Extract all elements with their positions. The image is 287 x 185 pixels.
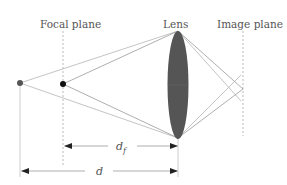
far-point: [17, 80, 23, 86]
d-f-dimension: df: [65, 140, 177, 155]
focal-plane-label: Focal plane: [40, 18, 101, 30]
thin-lens-diagram: df d Focal plane Lens Image plane: [0, 0, 287, 185]
svg-text:df: df: [116, 140, 128, 155]
rays-far-point: [20, 31, 241, 138]
lens-label: Lens: [163, 18, 188, 30]
image-plane-label: Image plane: [217, 18, 283, 30]
diagram-canvas: df d Focal plane Lens Image plane: [0, 0, 287, 185]
rays-focal-point: [63, 31, 243, 138]
d-f-subscript: f: [122, 146, 128, 155]
focal-point: [60, 81, 66, 87]
d-f-label: d: [116, 140, 123, 153]
d-label: d: [96, 165, 103, 178]
d-dimension: d: [22, 165, 177, 178]
